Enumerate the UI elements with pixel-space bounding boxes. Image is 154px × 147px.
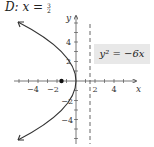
- focus-point: [59, 79, 63, 83]
- svg-text:−2: −2: [47, 85, 59, 94]
- svg-text:−4: −4: [27, 85, 39, 94]
- svg-text:4: 4: [111, 85, 116, 94]
- svg-text:−4: −4: [61, 116, 73, 125]
- tick-labels: −4 −2 2 4 4 2 −2 −4: [27, 38, 116, 125]
- y-axis-label: y: [65, 13, 72, 23]
- svg-text:2: 2: [92, 85, 97, 94]
- parabola-plot: −4 −2 2 4 4 2 −2 −4 x y: [0, 0, 154, 147]
- svg-text:4: 4: [66, 38, 71, 47]
- x-axis-label: x: [136, 84, 141, 94]
